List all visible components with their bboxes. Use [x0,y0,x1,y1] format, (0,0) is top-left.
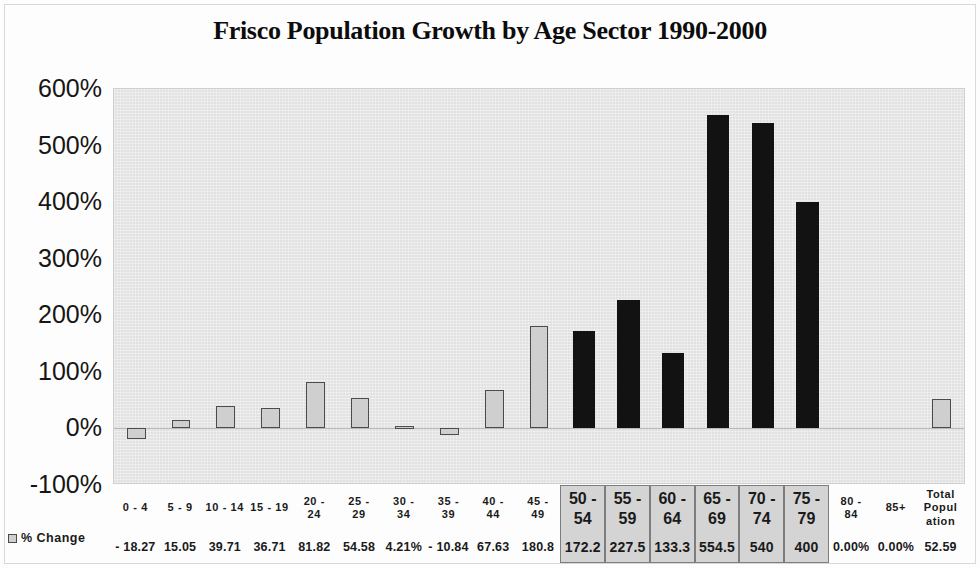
bar [306,382,325,428]
bar [127,428,146,438]
category-label-text: 50 -54 [569,489,597,528]
category-label: 55 -59 [605,485,650,531]
category-label: 65 -69 [695,485,740,531]
table-column: 25 -2954.58 [337,485,382,563]
category-label: 50 -54 [560,485,605,531]
category-label: 5 - 9 [158,485,203,531]
table-column: 75 -79400 [784,485,829,563]
value-label: - 18.27 [113,531,158,563]
bar [573,331,595,428]
table-column: 35 -39- 10.84 [426,485,471,563]
category-label: TotalPopulation [918,485,963,531]
y-axis-tick-label: 200% [10,302,102,327]
legend-swatch-icon [8,534,17,543]
value-label: 172.2 [560,531,605,563]
category-label-text: 35 -39 [438,495,459,522]
bar [796,202,818,428]
category-label-text: 5 - 9 [168,501,193,514]
category-label: 45 -49 [516,485,561,531]
table-column: 20 -2481.82 [292,485,337,563]
y-axis-tick-label: 500% [10,132,102,157]
category-label-text: 40 -44 [483,495,504,522]
value-label: 4.21% [381,531,426,563]
legend: % Change [8,531,85,545]
category-label-text: 15 - 19 [250,501,288,514]
category-label-text: 25 -29 [348,495,369,522]
category-label-text: 80 -84 [840,495,861,522]
category-label: 0 - 4 [113,485,158,531]
bar [617,300,639,429]
table-column: 15 - 1936.71 [247,485,292,563]
y-axis-tick-label: 600% [10,76,102,101]
table-column: 30 -344.21% [381,485,426,563]
plot-area [113,88,965,484]
table-column: TotalPopulation52.59 [918,485,963,563]
table-column: 65 -69554.5 [695,485,740,563]
y-axis-tick-label: 0% [10,415,102,440]
category-label: 75 -79 [784,485,829,531]
table-column: 50 -54172.2 [560,485,605,563]
category-label: 60 -64 [650,485,695,531]
table-column: 80 -840.00% [829,485,874,563]
value-label: 67.63 [471,531,516,563]
bar [530,326,549,428]
bars-layer [114,89,964,483]
y-axis-tick-label: 100% [10,358,102,383]
value-label: 400 [784,531,829,563]
bar [216,406,235,428]
table-column: 10 - 1439.71 [202,485,247,563]
value-label: 54.58 [337,531,382,563]
table-column: 40 -4467.63 [471,485,516,563]
bar [440,428,459,434]
bar [395,426,414,429]
value-label: 133.3 [650,531,695,563]
y-axis: 600%500%400%300%200%100%0%-100% [10,88,108,488]
table-column: 5 - 915.05 [158,485,203,563]
bar [172,420,191,429]
value-label: 36.71 [247,531,292,563]
value-label: 180.8 [516,531,561,563]
category-label-text: 70 -74 [748,489,776,528]
table-column: 55 -59227.5 [605,485,650,563]
value-label: 540 [739,531,784,563]
chart-container: Frisco Population Growth by Age Sector 1… [0,0,980,568]
value-label: 0.00% [829,531,874,563]
value-label: 554.5 [695,531,740,563]
table-column: 85+0.00% [874,485,919,563]
category-label-text: TotalPopulation [924,488,958,528]
legend-label: % Change [21,531,85,545]
bar [662,353,684,428]
table-column: 0 - 4- 18.27 [113,485,158,563]
value-label: 0.00% [874,531,919,563]
y-axis-tick-label: -100% [10,472,102,497]
category-label: 70 -74 [739,485,784,531]
category-label: 10 - 14 [202,485,247,531]
category-label: 30 -34 [381,485,426,531]
category-label-text: 10 - 14 [206,501,244,514]
category-label-text: 60 -64 [658,489,686,528]
value-label: 15.05 [158,531,203,563]
category-label: 20 -24 [292,485,337,531]
value-label: 39.71 [202,531,247,563]
category-label-text: 65 -69 [703,489,731,528]
category-label: 80 -84 [829,485,874,531]
table-column: 60 -64133.3 [650,485,695,563]
category-label: 35 -39 [426,485,471,531]
category-label: 25 -29 [337,485,382,531]
category-label: 40 -44 [471,485,516,531]
category-label-text: 55 -59 [614,489,642,528]
bar [485,390,504,428]
category-label-text: 75 -79 [793,489,821,528]
value-label: 227.5 [605,531,650,563]
category-label-text: 20 -24 [304,495,325,522]
bar [932,399,951,429]
category-label-text: 0 - 4 [123,501,148,514]
value-label: 81.82 [292,531,337,563]
bar [261,408,280,429]
category-label-text: 85+ [886,501,906,514]
y-axis-tick-label: 300% [10,245,102,270]
category-label: 15 - 19 [247,485,292,531]
y-axis-tick-label: 400% [10,189,102,214]
category-label-text: 45 -49 [527,495,548,522]
chart-title: Frisco Population Growth by Age Sector 1… [0,16,980,46]
